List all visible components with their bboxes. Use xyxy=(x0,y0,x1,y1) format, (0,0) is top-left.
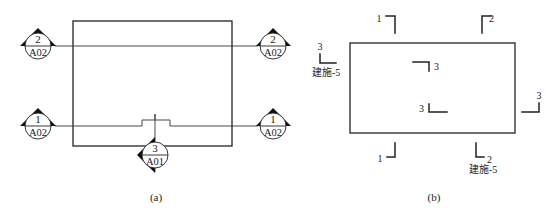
figure-a: 2 A02 1 A02 2 A02 1 A02 xyxy=(20,21,291,204)
svg-text:1: 1 xyxy=(377,13,382,24)
symbol-number: 1 xyxy=(35,113,41,125)
svg-text:3: 3 xyxy=(419,103,424,114)
symbol-number: 1 xyxy=(270,113,276,125)
svg-text:2: 2 xyxy=(489,13,494,24)
section-line-1 xyxy=(55,120,258,126)
diagram-canvas: 2 A02 1 A02 2 A02 1 A02 xyxy=(0,0,558,214)
svg-text:建施-5: 建施-5 xyxy=(312,66,340,78)
svg-text:3: 3 xyxy=(537,90,542,101)
symbol-sheet: A02 xyxy=(264,47,282,58)
svg-text:建施-5: 建施-5 xyxy=(469,163,497,175)
symbol-sheet: A02 xyxy=(264,127,282,138)
symbol-sheet: A01 xyxy=(146,156,164,167)
section-mark-bottom-2: 2 建施-5 xyxy=(469,143,497,175)
plan-outline-a xyxy=(73,21,232,146)
section-mark-top-2: 2 xyxy=(482,13,494,33)
index-symbol-bottom: 3 A01 xyxy=(137,137,168,173)
index-symbol-left-top: 2 A02 xyxy=(20,28,56,59)
symbol-number: 2 xyxy=(35,33,41,45)
caption-a: (a) xyxy=(150,191,163,204)
caption-b: (b) xyxy=(428,191,441,204)
symbol-sheet: A02 xyxy=(29,127,47,138)
index-symbol-left-bottom: 1 A02 xyxy=(20,108,56,139)
svg-text:3: 3 xyxy=(434,61,439,72)
section-mark-left-3: 3 建施-5 xyxy=(312,41,340,78)
svg-text:3: 3 xyxy=(318,41,323,52)
section-mark-right-3: 3 xyxy=(522,90,542,112)
section-mark-inner-3b: 3 xyxy=(419,103,447,114)
symbol-number: 2 xyxy=(270,33,276,45)
figure-b: 1 2 3 建施-5 3 3 3 1 xyxy=(312,13,542,204)
symbol-number: 3 xyxy=(152,142,158,154)
section-mark-bottom-1: 1 xyxy=(378,143,396,164)
index-symbol-right-top: 2 A02 xyxy=(256,28,291,59)
section-mark-top-1: 1 xyxy=(377,13,396,33)
section-mark-inner-3a: 3 xyxy=(413,61,439,72)
svg-text:1: 1 xyxy=(378,153,383,164)
plan-outline-b xyxy=(350,43,515,133)
index-symbol-right-bottom: 1 A02 xyxy=(256,108,291,139)
symbol-sheet: A02 xyxy=(29,47,47,58)
